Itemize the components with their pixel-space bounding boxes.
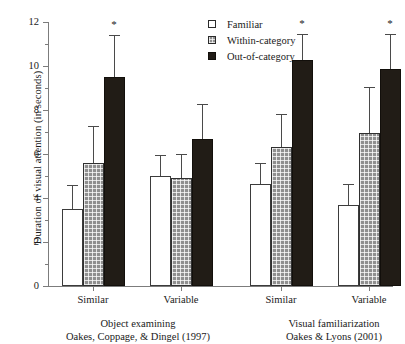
- error-bar-out-g4: [390, 34, 391, 69]
- panel-1-title: Object examining: [38, 317, 238, 330]
- panel-caption-2: Visual familiarization Oakes & Lyons (20…: [244, 317, 405, 344]
- error-bar-familiar-g4: [348, 184, 349, 205]
- y-tick-label-8: 8: [15, 105, 39, 116]
- significance-star-out-g3: *: [296, 18, 308, 29]
- error-cap-familiar-g4: [343, 184, 354, 185]
- bar-familiar-g2: [150, 176, 171, 286]
- legend-label-familiar: Familiar: [227, 19, 263, 30]
- significance-star-out-g4: *: [384, 18, 396, 29]
- y-tick-minor-3: [45, 220, 48, 221]
- bar-out-g2: [192, 139, 213, 286]
- x-tick-g3: [281, 286, 282, 291]
- legend-item-familiar: Familiar: [208, 16, 295, 32]
- error-bar-within-g1: [93, 126, 94, 163]
- error-bar-familiar-g1: [72, 185, 73, 209]
- square-hatched-icon: [208, 36, 216, 44]
- error-bar-within-g4: [369, 87, 370, 133]
- x-tick-g4: [369, 286, 370, 291]
- error-cap-within-g2: [176, 154, 187, 155]
- bar-familiar-g4: [338, 205, 359, 286]
- error-cap-out-g3: [297, 34, 308, 35]
- error-cap-out-g4: [385, 34, 396, 35]
- x-tick-g2: [181, 286, 182, 291]
- error-bar-out-g1: [114, 35, 115, 77]
- y-tick-0: [43, 286, 48, 287]
- x-group-label-2: Variable: [136, 294, 226, 305]
- legend-label-within-category: Within-category: [227, 35, 295, 46]
- bar-within-g4: [359, 133, 380, 286]
- bar-within-g1: [83, 163, 104, 286]
- square-filled-icon: [208, 52, 216, 60]
- error-bar-familiar-g2: [160, 155, 161, 176]
- bar-within-g2: [171, 178, 192, 286]
- y-tick-minor-1: [45, 264, 48, 265]
- error-bar-out-g3: [302, 34, 303, 60]
- y-tick-minor-7: [45, 132, 48, 133]
- error-bar-familiar-g3: [260, 163, 261, 184]
- y-tick-label-10: 10: [15, 61, 39, 72]
- panel-2-citation: Oakes & Lyons (2001): [244, 330, 405, 343]
- error-cap-within-g1: [88, 126, 99, 127]
- error-cap-familiar-g3: [255, 163, 266, 164]
- error-cap-out-g2: [197, 104, 208, 105]
- y-tick-label-4: 4: [15, 193, 39, 204]
- x-tick-g1: [93, 286, 94, 291]
- error-cap-out-g1: [109, 35, 120, 36]
- bar-out-g4: [380, 69, 401, 286]
- error-bar-within-g3: [281, 114, 282, 147]
- error-bar-out-g2: [202, 104, 203, 139]
- y-tick-minor-5: [45, 176, 48, 177]
- y-tick-12: [43, 22, 48, 23]
- y-tick-4: [43, 198, 48, 199]
- error-cap-within-g3: [276, 114, 287, 115]
- x-group-label-4: Variable: [324, 294, 405, 305]
- bar-familiar-g3: [250, 184, 271, 286]
- bar-within-g3: [271, 147, 292, 286]
- y-tick-8: [43, 110, 48, 111]
- y-tick-minor-9: [45, 88, 48, 89]
- y-tick-10: [43, 66, 48, 67]
- bar-out-g1: [104, 77, 125, 286]
- legend-item-out-of-category: Out-of-category: [208, 48, 295, 64]
- y-tick-minor-11: [45, 44, 48, 45]
- y-tick-label-0: 0: [15, 281, 39, 292]
- x-group-label-3: Similar: [236, 294, 326, 305]
- bar-familiar-g1: [62, 209, 83, 286]
- bar-out-g3: [292, 60, 313, 286]
- legend-item-within-category: Within-category: [208, 32, 295, 48]
- x-group-label-1: Similar: [48, 294, 138, 305]
- error-cap-familiar-g1: [67, 185, 78, 186]
- panel-2-title: Visual familiarization: [244, 317, 405, 330]
- y-axis-line: [48, 22, 49, 287]
- y-tick-label-6: 6: [15, 149, 39, 160]
- error-cap-within-g4: [364, 87, 375, 88]
- y-tick-6: [43, 154, 48, 155]
- error-cap-familiar-g2: [155, 155, 166, 156]
- panel-caption-1: Object examining Oakes, Coppage, & Dinge…: [38, 317, 238, 344]
- significance-star-out-g1: *: [108, 19, 120, 30]
- panel-1-citation: Oakes, Coppage, & Dingel (1997): [38, 330, 238, 343]
- y-tick-label-12: 12: [15, 17, 39, 28]
- y-tick-label-2: 2: [15, 237, 39, 248]
- legend-label-out-of-category: Out-of-category: [227, 51, 295, 62]
- square-open-icon: [208, 20, 216, 28]
- chart-legend: Familiar Within-category Out-of-category: [208, 16, 295, 64]
- error-bar-within-g2: [181, 154, 182, 178]
- y-tick-2: [43, 242, 48, 243]
- x-axis-line: [48, 286, 393, 287]
